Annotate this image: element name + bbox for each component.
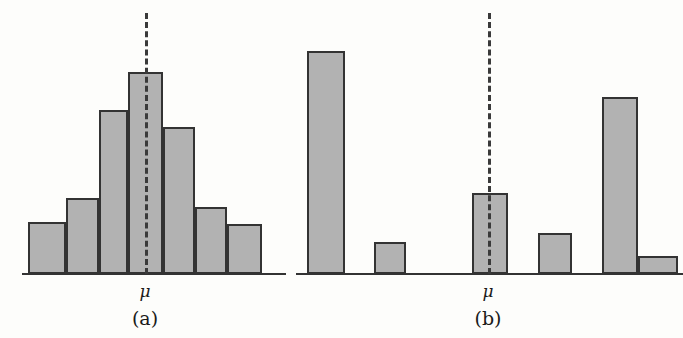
histogram-bar (307, 51, 345, 274)
baseline-axis (22, 273, 286, 275)
panel-caption-a: (a) (132, 309, 158, 328)
figure-container: μ μ (a) (b) (0, 0, 683, 338)
mean-dashed-line (488, 13, 491, 274)
mu-label-b: μ (482, 283, 493, 300)
mu-label-a: μ (139, 283, 150, 300)
mean-dashed-line (145, 13, 148, 274)
panel-caption-b: (b) (475, 309, 502, 328)
histogram-bar (227, 224, 262, 274)
histogram-bar (163, 127, 195, 274)
histogram-bar (195, 207, 227, 274)
histogram-bar (374, 242, 406, 274)
histogram-bar (638, 256, 678, 274)
histogram-bar (538, 233, 572, 274)
histogram-bar (99, 110, 128, 274)
histogram-bar (602, 97, 638, 274)
histogram-bar (66, 198, 99, 274)
histogram-bar (28, 222, 66, 274)
